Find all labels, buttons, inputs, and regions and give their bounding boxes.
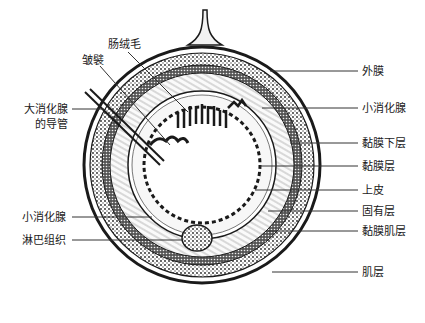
lymphoid-nodule bbox=[182, 225, 212, 251]
label-serosa: 外膜 bbox=[362, 65, 384, 78]
label-large-gland-duct-1: 大消化腺 bbox=[20, 103, 68, 116]
label-muscularis-mucosae: 黏膜肌层 bbox=[362, 225, 406, 238]
label-plica: 皱襞 bbox=[82, 54, 104, 67]
mesentery bbox=[188, 10, 222, 45]
label-large-gland-duct-2: 的导管 bbox=[20, 118, 68, 131]
label-epithelium: 上皮 bbox=[362, 184, 384, 197]
label-lamina-propria: 固有层 bbox=[362, 205, 395, 218]
epithelium-lumen bbox=[144, 107, 260, 223]
label-small-gland-right: 小消化腺 bbox=[362, 102, 406, 115]
label-small-gland-left: 小消化腺 bbox=[22, 211, 66, 224]
label-muscle-layer: 肌层 bbox=[362, 266, 384, 279]
label-submucosa: 黏膜下层 bbox=[362, 137, 406, 150]
digestive-tract-cross-section: 外膜 小消化腺 黏膜下层 黏膜层 上皮 固有层 黏膜肌层 肌层 肠绒毛 皱襞 大… bbox=[0, 0, 425, 323]
label-lymphoid: 淋巴组织 bbox=[22, 234, 66, 247]
label-mucosa: 黏膜层 bbox=[362, 160, 395, 173]
label-villi: 肠绒毛 bbox=[108, 38, 141, 51]
